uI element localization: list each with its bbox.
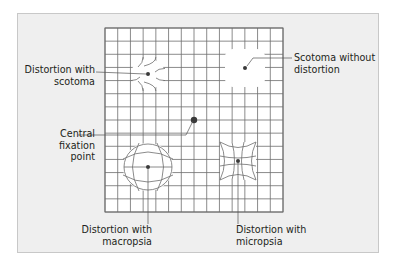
label-line: distortion <box>294 64 375 76</box>
label-line: micropsia <box>236 236 306 248</box>
label-line: scotoma <box>20 76 95 88</box>
label-line: point <box>20 151 95 163</box>
label-scotoma-without-distortion: Scotoma without distortion <box>294 52 375 75</box>
label-distortion-with-macropsia: Distortion with macropsia <box>60 224 152 247</box>
label-central-fixation-point: Central fixation point <box>20 128 95 163</box>
label-line: Scotoma without <box>294 52 375 64</box>
label-line: Distortion with <box>20 64 95 76</box>
central-fixation-point <box>191 117 197 123</box>
label-line: Distortion with <box>60 224 152 236</box>
scotoma-distortion-point <box>146 72 150 76</box>
label-line: Distortion with <box>236 224 306 236</box>
label-line: Central <box>20 128 95 140</box>
label-distortion-with-scotoma: Distortion with scotoma <box>20 64 95 87</box>
micropsia-point <box>236 159 240 163</box>
macropsia-point <box>146 165 150 169</box>
label-line: macropsia <box>60 236 152 248</box>
label-distortion-with-micropsia: Distortion with micropsia <box>236 224 306 247</box>
scotoma-point <box>243 66 247 70</box>
label-line: fixation <box>20 140 95 152</box>
